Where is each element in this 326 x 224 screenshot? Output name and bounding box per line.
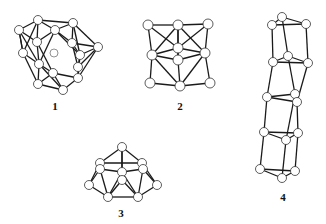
bond — [260, 132, 264, 169]
atom — [173, 43, 183, 53]
cluster-diagram — [0, 0, 326, 224]
atom — [34, 16, 43, 25]
atom — [203, 19, 213, 29]
atom — [134, 193, 143, 202]
structure-label-3: 3 — [118, 207, 124, 219]
atom — [269, 58, 278, 67]
atom — [200, 48, 210, 58]
bond — [272, 24, 306, 25]
atom — [49, 69, 58, 78]
atom — [118, 176, 127, 185]
structure-1 — [15, 16, 103, 95]
bond — [148, 25, 178, 48]
atom — [74, 63, 83, 72]
atom — [268, 21, 277, 30]
atom — [173, 20, 183, 30]
atom — [291, 90, 300, 99]
atom — [51, 26, 60, 35]
atom — [153, 181, 162, 190]
bond — [23, 20, 38, 53]
bond — [282, 140, 286, 178]
structure-label-2: 2 — [177, 100, 183, 112]
atom — [256, 165, 265, 174]
bond — [288, 56, 295, 94]
atom — [173, 55, 183, 65]
structure-3 — [85, 143, 162, 202]
structure-label-4: 4 — [280, 191, 286, 203]
atom — [260, 128, 269, 137]
atom — [139, 165, 148, 174]
bond — [264, 132, 298, 133]
atom — [69, 19, 78, 28]
atom — [293, 98, 302, 107]
atom — [145, 78, 155, 88]
atom — [19, 49, 28, 58]
bond — [273, 62, 308, 63]
atom — [282, 136, 291, 145]
atom — [118, 143, 127, 152]
structure-label-1: 1 — [52, 100, 58, 112]
atom — [294, 129, 303, 138]
bond — [264, 97, 267, 132]
atom — [59, 86, 68, 95]
atom — [35, 60, 44, 69]
atom — [34, 80, 43, 89]
atom — [175, 81, 185, 91]
atom — [33, 38, 42, 47]
bond — [272, 25, 273, 62]
atom — [302, 20, 311, 29]
atom — [15, 26, 24, 35]
atom — [143, 20, 153, 30]
atom — [94, 43, 103, 52]
atom — [205, 78, 215, 88]
structure-4 — [256, 13, 313, 183]
bond — [282, 17, 288, 56]
central-atom — [50, 49, 58, 57]
atom — [284, 52, 293, 61]
bond — [306, 24, 308, 63]
atom — [76, 51, 85, 60]
atom — [104, 193, 113, 202]
atom — [263, 93, 272, 102]
atom — [147, 50, 157, 60]
bond — [267, 62, 273, 97]
atom — [74, 74, 83, 83]
atom — [304, 59, 313, 68]
atom — [291, 167, 300, 176]
atom — [96, 165, 105, 174]
bond — [295, 133, 298, 171]
atom — [278, 13, 287, 22]
structure-2 — [143, 19, 215, 91]
atom — [68, 39, 77, 48]
atom — [278, 174, 287, 183]
atom — [85, 181, 94, 190]
